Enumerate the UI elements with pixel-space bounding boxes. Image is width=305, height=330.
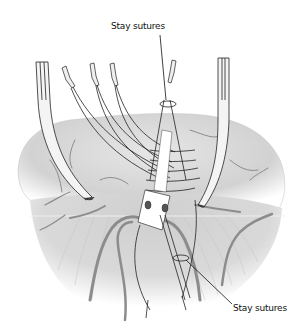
surgical-diagram bbox=[0, 0, 305, 330]
stay-sutures-label-top: Stay sutures bbox=[111, 21, 165, 31]
stay-sutures-label-bottom: Stay sutures bbox=[233, 303, 287, 313]
small-forceps bbox=[62, 60, 176, 88]
